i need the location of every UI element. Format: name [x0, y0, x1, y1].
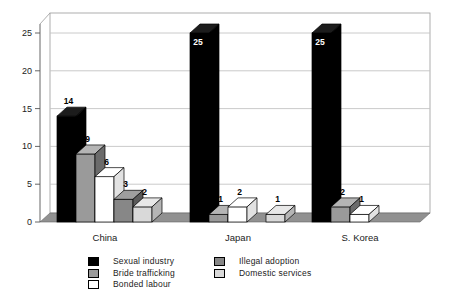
legend: Sexual industry Bride trafficking Bonded…: [0, 256, 454, 300]
category-label: S. Korea: [342, 232, 380, 243]
wall-left-top-edge: [40, 13, 50, 24]
bar-front-face: [76, 154, 95, 222]
category-label: China: [93, 232, 119, 243]
bar-skorea-sexual-industry: 25: [312, 24, 341, 222]
y-axis-tick-label: 20: [22, 66, 32, 76]
bar-front-face: [350, 214, 369, 222]
legend-label: Bride trafficking: [113, 268, 175, 280]
legend-swatch-bride-trafficking: [88, 269, 99, 278]
bar-front-face: [57, 116, 76, 222]
bar-front-face: [133, 207, 152, 222]
legend-swatch-sexual-industry: [88, 257, 99, 266]
y-axis-tick-label: 10: [22, 141, 32, 151]
bar-front-face: [331, 207, 350, 222]
bar-front-face: [190, 33, 209, 222]
bar-value-label: 9: [85, 134, 90, 144]
legend-swatch-bonded-labour: [88, 280, 99, 289]
bar-front-face: [266, 214, 285, 222]
y-axis-tick-label: 25: [22, 28, 32, 38]
y-axis-tick-label: 0: [27, 217, 32, 227]
bar-front-face: [209, 214, 228, 222]
legend-item: Bonded labour: [88, 279, 175, 291]
bar-value-label: 25: [193, 37, 203, 47]
legend-item: Bride trafficking: [88, 268, 175, 280]
y-axis-tick-label: 15: [22, 104, 32, 114]
legend-column-1: Sexual industry Bride trafficking Bonded…: [88, 256, 175, 291]
bar-chart-3d: 0510152025149632251212521ChinaJapanS. Ko…: [0, 0, 454, 256]
legend-item: Sexual industry: [88, 256, 175, 268]
legend-item: Domestic services: [214, 268, 311, 280]
bar-front-face: [228, 207, 247, 222]
bar-value-label: 25: [315, 37, 325, 47]
bar-value-label: 3: [123, 179, 128, 189]
legend-item: Illegal adoption: [214, 256, 311, 268]
bar-value-label: 2: [142, 187, 147, 197]
bar-value-label: 1: [218, 194, 223, 204]
category-label: Japan: [225, 232, 251, 243]
legend-label: Domestic services: [239, 268, 311, 280]
bar-value-label: 2: [340, 187, 345, 197]
legend-swatch-domestic-services: [214, 269, 225, 278]
bar-value-label: 1: [275, 194, 280, 204]
bar-value-label: 6: [104, 157, 109, 167]
bar-value-label: 2: [237, 187, 242, 197]
bar-front-face: [95, 177, 114, 222]
legend-column-2: Illegal adoption Domestic services: [214, 256, 311, 279]
bar-side-face: [209, 24, 219, 222]
legend-label: Illegal adoption: [239, 256, 299, 268]
bar-front-face: [312, 33, 331, 222]
legend-label: Bonded labour: [113, 279, 171, 291]
chart-figure: 0510152025149632251212521ChinaJapanS. Ko…: [0, 0, 454, 304]
bar-value-label: 1: [359, 194, 364, 204]
legend-label: Sexual industry: [113, 256, 174, 268]
bar-japan-sexual-industry: 25: [190, 24, 219, 222]
legend-swatch-illegal-adoption: [214, 257, 225, 266]
y-axis-tick-label: 5: [27, 179, 32, 189]
bar-value-label: 14: [64, 96, 74, 106]
bar-front-face: [114, 199, 133, 222]
